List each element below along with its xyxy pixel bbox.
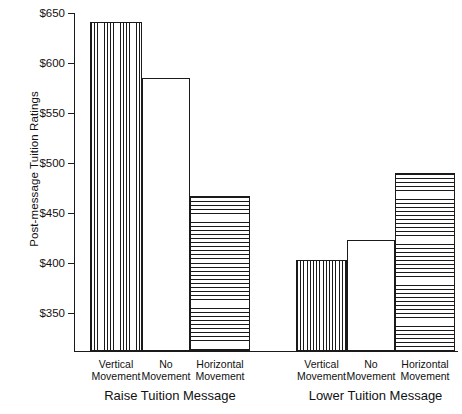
y-axis-title: Post-message Tuition Ratings [28,39,40,299]
y-axis-tick-label: $600 [39,57,65,69]
x-axis-group-label: Raise Tuition Message [60,388,280,403]
y-axis-tick-label: $650 [39,7,65,19]
y-axis-tick-mark [68,13,74,14]
bar [190,196,250,351]
bar [347,240,395,351]
y-axis-tick-mark [68,113,74,114]
bar [142,78,190,351]
x-axis-tick-label-line1: Horizontal [182,358,258,370]
plot-area: $650$600$550$500$450$400$350 [74,13,458,352]
y-axis-tick-mark [68,63,74,64]
y-axis-tick-label: $400 [39,257,65,269]
y-axis-tick-label: $450 [39,207,65,219]
bar [395,173,455,351]
x-axis-tick-label-line2: Movement [387,370,462,382]
x-axis-tick-label: HorizontalMovement [182,358,258,382]
y-axis-tick-label: $550 [39,107,65,119]
x-axis-group-label: Lower Tuition Message [266,388,462,403]
bar [296,260,347,351]
x-axis-tick-label-line2: Movement [182,370,258,382]
x-axis-tick-label: HorizontalMovement [387,358,462,382]
bar-chart: Post-message Tuition Ratings $650$600$55… [0,0,462,414]
y-axis-tick-mark [68,163,74,164]
y-axis-tick-mark [68,313,74,314]
x-axis-line [74,351,458,352]
y-axis-tick-label: $350 [39,307,65,319]
bar [90,22,142,351]
y-axis-tick-mark [68,263,74,264]
y-axis-tick-mark [68,213,74,214]
y-axis-tick-label: $500 [39,157,65,169]
x-axis-tick-label-line1: Horizontal [387,358,462,370]
y-axis-line [74,13,75,352]
